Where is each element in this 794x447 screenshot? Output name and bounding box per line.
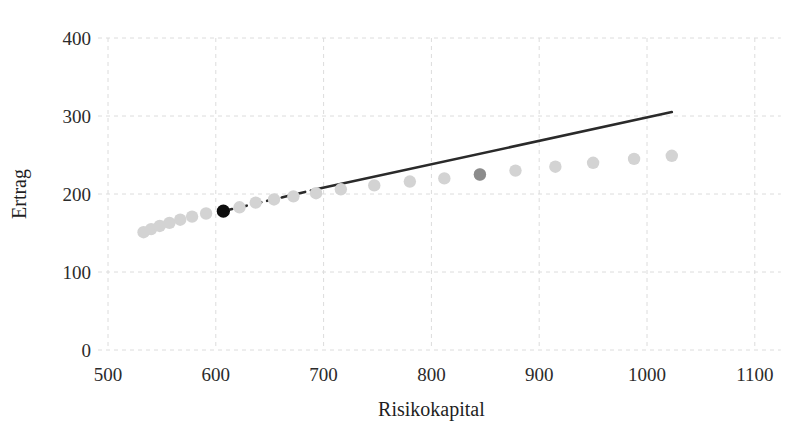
data-point <box>163 217 175 229</box>
data-point <box>268 193 280 205</box>
x-tick-label: 500 <box>94 364 123 385</box>
y-axis-title: Ertrag <box>8 169 31 219</box>
x-axis-title: Risikokapital <box>378 398 485 421</box>
data-point <box>509 164 521 176</box>
data-point <box>335 183 347 195</box>
y-tick-label: 200 <box>63 184 92 205</box>
x-tick-label: 700 <box>309 364 338 385</box>
data-point <box>404 175 416 187</box>
y-axis-tick-labels: 0100200300400 <box>63 28 92 361</box>
data-point <box>174 214 186 226</box>
data-point <box>438 172 450 184</box>
y-tick-label: 300 <box>63 106 92 127</box>
data-point <box>200 207 212 219</box>
x-tick-label: 1100 <box>736 364 773 385</box>
data-point <box>474 168 486 180</box>
scatter-chart: 50060070080090010001100 0100200300400 Ri… <box>0 0 794 447</box>
data-point <box>249 196 261 208</box>
y-tick-label: 400 <box>63 28 92 49</box>
x-tick-label: 1000 <box>628 364 666 385</box>
data-point <box>310 187 322 199</box>
data-point <box>628 153 640 165</box>
y-tick-label: 100 <box>63 262 92 283</box>
gridlines <box>98 38 781 350</box>
data-point <box>217 205 230 218</box>
data-point <box>368 179 380 191</box>
x-tick-label: 900 <box>525 364 554 385</box>
y-tick-label: 0 <box>82 340 92 361</box>
data-layer <box>137 112 678 238</box>
x-tick-label: 600 <box>202 364 231 385</box>
data-point <box>186 210 198 222</box>
data-point <box>549 161 561 173</box>
data-point <box>587 157 599 169</box>
chart-container: 50060070080090010001100 0100200300400 Ri… <box>0 0 794 447</box>
data-point <box>233 201 245 213</box>
data-point <box>287 190 299 202</box>
x-tick-label: 800 <box>417 364 446 385</box>
x-axis-tick-labels: 50060070080090010001100 <box>94 364 774 385</box>
tangent-line-solid <box>316 112 672 189</box>
data-point <box>666 150 678 162</box>
